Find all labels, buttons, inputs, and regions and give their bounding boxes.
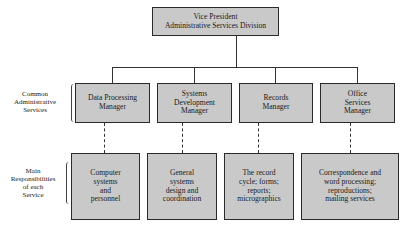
manager-label: Records Manager xyxy=(263,94,290,111)
responsibility-label: Correspondence and word processing; repr… xyxy=(319,169,381,203)
dashed-link-1 xyxy=(104,123,105,153)
manager-label: Office Services Manager xyxy=(344,90,371,116)
connector-drop-2 xyxy=(194,67,195,83)
manager-label: Data Processing Manager xyxy=(88,94,137,111)
row-label-managers: Common Administrative Services xyxy=(4,90,66,114)
responsibility-box-2: General systems design and coordination xyxy=(147,153,217,220)
manager-box-office-services: Office Services Manager xyxy=(320,83,395,123)
manager-box-data-processing: Data Processing Manager xyxy=(75,83,150,123)
connector-top-vertical xyxy=(236,36,237,67)
responsibility-label: General systems design and coordination xyxy=(163,169,201,203)
vice-president-box: Vice President Administrative Services D… xyxy=(152,7,279,36)
manager-box-systems-development: Systems Development Manager xyxy=(157,83,232,123)
vice-president-label: Vice President Administrative Services D… xyxy=(165,13,266,30)
manager-label: Systems Development Manager xyxy=(174,90,215,116)
connector-drop-3 xyxy=(275,67,276,83)
row-label-responsibilities: Main Responsibilities of each Service xyxy=(2,167,64,199)
connector-drop-1 xyxy=(112,67,113,83)
responsibility-box-4: Correspondence and word processing; repr… xyxy=(301,153,399,220)
manager-box-records: Records Manager xyxy=(239,83,313,123)
responsibility-box-3: The record cycle; forms; reports; microg… xyxy=(224,153,294,220)
responsibility-label: Computer systems and personnel xyxy=(90,169,120,203)
dashed-link-3 xyxy=(258,123,259,153)
dashed-link-2 xyxy=(182,123,183,153)
responsibility-box-1: Computer systems and personnel xyxy=(71,153,140,220)
dashed-link-4 xyxy=(350,123,351,153)
responsibility-label: The record cycle; forms; reports; microg… xyxy=(237,169,280,203)
bracket-responsibilities xyxy=(66,162,70,204)
connector-drop-4 xyxy=(357,67,358,83)
connector-horizontal xyxy=(112,67,358,68)
